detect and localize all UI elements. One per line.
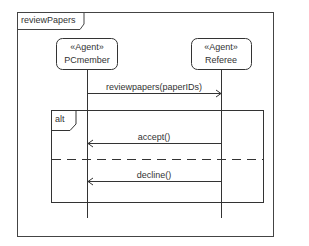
message-label-decline: decline(): [137, 170, 172, 180]
message-label-accept: accept(): [138, 132, 171, 142]
frame-label: reviewPapers: [21, 15, 76, 25]
sequence-diagram-canvas: [0, 0, 309, 246]
message-label-reviewpapers: reviewpapers(paperIDs): [106, 82, 202, 92]
pcmember-name: PCmember: [64, 55, 110, 65]
pcmember-stereotype: «Agent»: [70, 42, 104, 52]
alt-operator-label: alt: [55, 114, 65, 124]
referee-stereotype: «Agent»: [204, 42, 238, 52]
alt-fragment: [52, 111, 264, 203]
referee-name: Referee: [205, 55, 237, 65]
